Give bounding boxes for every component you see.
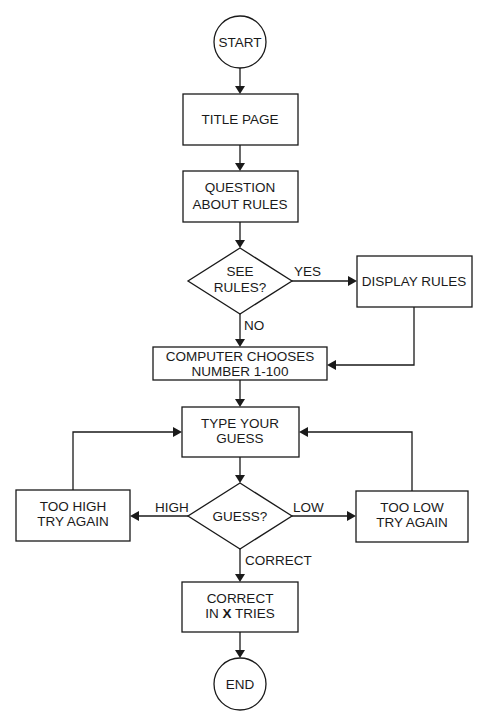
see-rules-line1: SEE	[226, 264, 253, 279]
arrow-icon	[235, 399, 245, 407]
arrow-icon	[130, 511, 139, 521]
arrow-icon	[327, 360, 336, 370]
start-node: START	[214, 16, 266, 68]
type-guess-line2: GUESS	[216, 431, 263, 446]
type-your-guess-node: TYPE YOUR GUESS	[182, 407, 299, 457]
see-rules-decision: SEE RULES?	[188, 248, 292, 314]
yes-label: YES	[294, 264, 321, 279]
start-label: START	[218, 35, 261, 50]
computer-chooses-line1: COMPUTER CHOOSES	[166, 349, 315, 364]
correct-label: CORRECT	[245, 553, 312, 568]
arrow-icon	[235, 240, 245, 248]
no-label: NO	[244, 318, 264, 333]
arrow-icon	[299, 427, 308, 437]
arrow-icon	[235, 475, 245, 483]
question-line1: QUESTION	[205, 180, 276, 195]
arrow-icon	[235, 86, 245, 94]
computer-chooses-line2: NUMBER 1-100	[192, 364, 289, 379]
question-about-rules-node: QUESTION ABOUT RULES	[183, 171, 298, 222]
end-node: END	[214, 658, 266, 710]
guess-decision-label: GUESS?	[213, 509, 268, 524]
arrow-icon	[235, 650, 245, 658]
display-rules-label: DISPLAY RULES	[362, 274, 467, 289]
display-rules-node: DISPLAY RULES	[357, 256, 472, 307]
too-low-line1: TOO LOW	[380, 500, 444, 515]
too-low-node: TOO LOW TRY AGAIN	[356, 491, 468, 542]
end-label: END	[226, 677, 255, 692]
too-high-line2: TRY AGAIN	[37, 514, 109, 529]
arrow-icon	[173, 427, 182, 437]
arrow-icon	[347, 511, 356, 521]
arrow-icon	[235, 574, 245, 582]
question-line2: ABOUT RULES	[192, 197, 287, 212]
too-low-line2: TRY AGAIN	[376, 515, 448, 530]
low-label: LOW	[293, 500, 324, 515]
title-page-label: TITLE PAGE	[201, 112, 278, 127]
correct-node: CORRECT IN X TRIES	[182, 582, 298, 632]
title-page-node: TITLE PAGE	[183, 94, 298, 145]
arrow-icon	[348, 276, 357, 286]
flowchart: START TITLE PAGE QUESTION ABOUT RULES SE…	[0, 0, 482, 725]
type-guess-line1: TYPE YOUR	[201, 416, 279, 431]
arrow-icon	[235, 163, 245, 171]
arrow-icon	[235, 339, 245, 347]
too-high-line1: TOO HIGH	[40, 499, 107, 514]
high-label: HIGH	[155, 500, 189, 515]
computer-chooses-node: COMPUTER CHOOSES NUMBER 1-100	[153, 347, 327, 380]
tries-variable: X	[222, 606, 231, 621]
correct-line1: CORRECT	[207, 591, 274, 606]
guess-decision: GUESS?	[188, 483, 292, 549]
too-high-node: TOO HIGH TRY AGAIN	[16, 490, 130, 541]
see-rules-line2: RULES?	[214, 280, 267, 295]
correct-line2: IN X TRIES	[205, 606, 275, 621]
